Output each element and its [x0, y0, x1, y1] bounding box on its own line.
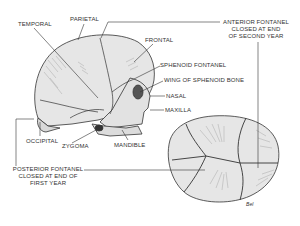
posterior-fontanel-line-3: FIRST YEAR	[12, 180, 84, 187]
label-nasal: NASAL	[166, 93, 186, 100]
label-temporal: TEMPORAL	[18, 21, 52, 28]
superior-skull	[168, 116, 279, 202]
anterior-fontanel-line-1: ANTERIOR FONTANEL	[222, 19, 290, 26]
label-posterior-fontanel: POSTERIOR FONTANEL CLOSED AT END OF FIRS…	[12, 166, 84, 187]
label-mandible: MANDIBLE	[114, 142, 145, 149]
anterior-fontanel-line-2: CLOSED AT END	[222, 26, 290, 33]
posterior-fontanel-line-2: CLOSED AT END OF	[12, 173, 84, 180]
label-sphenoid-fontanel: SPHENOID FONTANEL	[160, 62, 226, 69]
label-zygoma: ZYGOMA	[62, 143, 89, 150]
posterior-fontanel-line-1: POSTERIOR FONTANEL	[12, 166, 84, 173]
anterior-fontanel-line-3: OF SECOND YEAR	[222, 33, 290, 40]
lateral-skull	[35, 35, 155, 136]
skull-diagram: TEMPORAL PARIETAL FRONTAL SPHENOID FONTA…	[0, 0, 300, 226]
label-maxilla: MAXILLA	[165, 107, 191, 114]
label-anterior-fontanel: ANTERIOR FONTANEL CLOSED AT END OF SECON…	[222, 19, 290, 40]
label-frontal: FRONTAL	[145, 37, 173, 44]
artist-signature: Bel	[246, 201, 254, 208]
label-wing-of-sphenoid: WING OF SPHENOID BONE	[164, 77, 244, 84]
label-parietal: PARIETAL	[70, 16, 99, 23]
label-occipital: OCCIPITAL	[26, 138, 58, 145]
